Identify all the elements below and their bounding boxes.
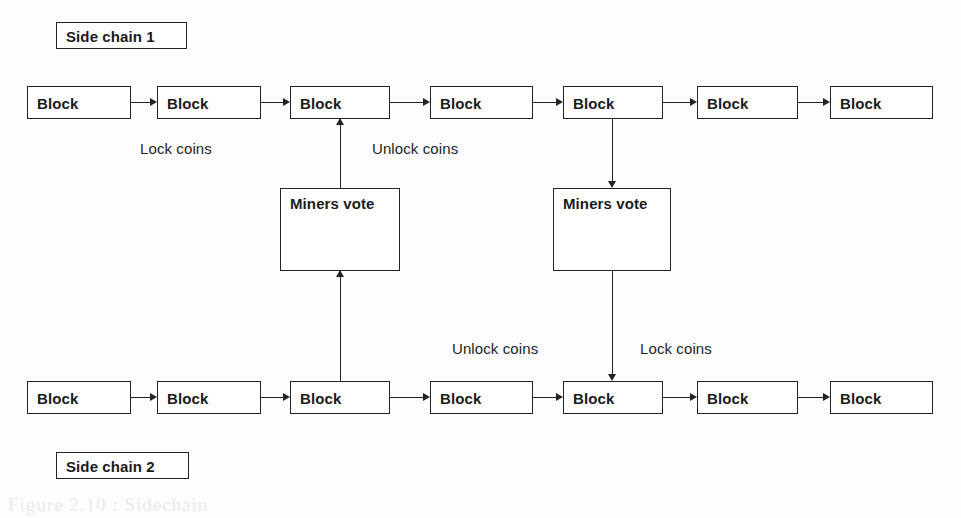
connector-right-vote-to-bottom-block-5 xyxy=(612,271,613,375)
block-label: Block xyxy=(167,94,208,111)
bottom-chain-block-6: Block xyxy=(697,381,798,414)
top-chain-block-4: Block xyxy=(430,86,533,119)
bottom-chain-arrowhead-5-6 xyxy=(690,393,697,401)
edge-label-lock-coins-bottom: Lock coins xyxy=(640,340,712,357)
bottom-chain-connector-6-7 xyxy=(798,397,823,398)
top-chain-arrowhead-4-5 xyxy=(556,98,563,106)
chain-tag-side-chain-1: Side chain 1 xyxy=(56,22,187,49)
arrowhead-down-into-bottom-block-5 xyxy=(608,374,616,381)
block-label: Block xyxy=(37,94,78,111)
bottom-chain-connector-1-2 xyxy=(131,397,150,398)
arrowhead-up-into-top-block-3 xyxy=(336,118,344,125)
connector-bottom-block-3-to-left-vote xyxy=(340,271,341,381)
top-chain-connector-2-3 xyxy=(261,102,283,103)
miners-vote-label: Miners vote xyxy=(290,195,374,212)
top-chain-connector-1-2 xyxy=(131,102,150,103)
top-chain-arrowhead-1-2 xyxy=(150,98,157,106)
top-chain-arrowhead-6-7 xyxy=(823,98,830,106)
block-label: Block xyxy=(707,389,748,406)
top-chain-block-1: Block xyxy=(27,86,131,119)
top-chain-block-3: Block xyxy=(290,86,390,119)
block-label: Block xyxy=(707,94,748,111)
bottom-chain-block-1: Block xyxy=(27,381,131,414)
bottom-chain-connector-2-3 xyxy=(261,397,283,398)
top-chain-block-2: Block xyxy=(157,86,261,119)
top-chain-block-7: Block xyxy=(830,86,933,119)
block-label: Block xyxy=(300,94,341,111)
bottom-chain-block-2: Block xyxy=(157,381,261,414)
bottom-chain-arrowhead-4-5 xyxy=(556,393,563,401)
edge-label-unlock-coins-bottom: Unlock coins xyxy=(452,340,538,357)
block-label: Block xyxy=(440,389,481,406)
chain-tag-label: Side chain 2 xyxy=(66,457,155,474)
arrowhead-up-into-left-vote xyxy=(336,270,344,277)
block-label: Block xyxy=(573,389,614,406)
top-chain-connector-3-4 xyxy=(390,102,423,103)
bottom-chain-arrowhead-1-2 xyxy=(150,393,157,401)
connector-left-vote-to-top-block-3 xyxy=(340,119,341,189)
chain-tag-side-chain-2: Side chain 2 xyxy=(56,452,189,479)
top-chain-block-5: Block xyxy=(563,86,663,119)
top-chain-block-6: Block xyxy=(697,86,798,119)
top-chain-connector-5-6 xyxy=(663,102,690,103)
top-chain-arrowhead-3-4 xyxy=(423,98,430,106)
miners-vote-box-left: Miners vote xyxy=(280,188,400,271)
ghost-caption: Figure 2.10 : Sidechain xyxy=(8,494,208,516)
bottom-chain-connector-4-5 xyxy=(533,397,556,398)
block-label: Block xyxy=(167,389,208,406)
top-chain-connector-4-5 xyxy=(533,102,556,103)
top-chain-arrowhead-5-6 xyxy=(690,98,697,106)
bottom-chain-connector-5-6 xyxy=(663,397,690,398)
bottom-chain-arrowhead-3-4 xyxy=(423,393,430,401)
edge-label-lock-coins-top: Lock coins xyxy=(140,140,212,157)
block-label: Block xyxy=(440,94,481,111)
bottom-chain-block-4: Block xyxy=(430,381,533,414)
top-chain-arrowhead-2-3 xyxy=(283,98,290,106)
connector-top-block-5-to-right-vote xyxy=(612,119,613,182)
bottom-chain-connector-3-4 xyxy=(390,397,423,398)
block-label: Block xyxy=(573,94,614,111)
block-label: Block xyxy=(300,389,341,406)
edge-label-unlock-coins-top: Unlock coins xyxy=(372,140,458,157)
bottom-chain-block-5: Block xyxy=(563,381,663,414)
bottom-chain-block-3: Block xyxy=(290,381,390,414)
block-label: Block xyxy=(37,389,78,406)
block-label: Block xyxy=(840,94,881,111)
chain-tag-label: Side chain 1 xyxy=(66,27,155,44)
bottom-chain-arrowhead-2-3 xyxy=(283,393,290,401)
diagram-canvas: Figure 2.10 : Sidechain Side chain 1 Sid… xyxy=(0,0,961,518)
miners-vote-box-right: Miners vote xyxy=(553,188,671,271)
arrowhead-down-into-right-vote xyxy=(608,181,616,188)
top-chain-connector-6-7 xyxy=(798,102,823,103)
bottom-chain-block-7: Block xyxy=(830,381,933,414)
miners-vote-label: Miners vote xyxy=(563,195,647,212)
bottom-chain-arrowhead-6-7 xyxy=(823,393,830,401)
block-label: Block xyxy=(840,389,881,406)
